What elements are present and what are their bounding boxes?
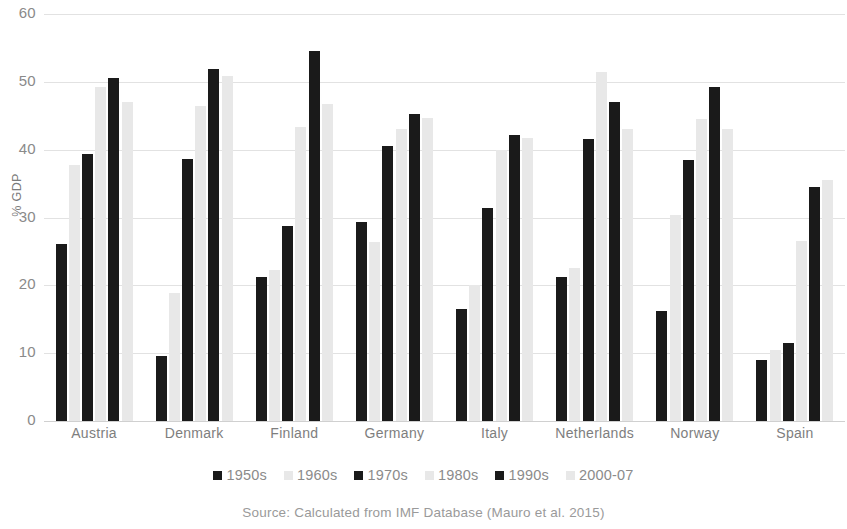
bar	[583, 139, 594, 421]
bar	[783, 343, 794, 421]
legend-item[interactable]: 1950s	[213, 467, 267, 483]
bar	[82, 154, 93, 421]
bar	[222, 76, 233, 421]
legend-item[interactable]: 1970s	[354, 467, 408, 483]
bar	[369, 242, 380, 421]
bar	[722, 129, 733, 421]
gridline	[44, 421, 845, 422]
bar	[696, 119, 707, 421]
legend-label: 2000-07	[579, 467, 634, 483]
bar	[322, 104, 333, 421]
bar	[195, 106, 206, 421]
legend-swatch-icon	[425, 471, 434, 480]
y-axis-tick-label: 20	[0, 275, 36, 292]
bar	[169, 293, 180, 421]
x-axis-tick-label: Netherlands	[545, 425, 645, 441]
x-axis-tick-label: Norway	[645, 425, 745, 441]
bar	[122, 102, 133, 421]
bar	[709, 87, 720, 421]
legend-swatch-icon	[213, 471, 222, 480]
bar	[609, 102, 620, 421]
y-axis-tick-label: 10	[0, 343, 36, 360]
bar	[295, 127, 306, 421]
legend-item[interactable]: 1960s	[284, 467, 338, 483]
bar	[269, 270, 280, 421]
source-note: Source: Calculated from IMF Database (Ma…	[0, 505, 847, 520]
y-axis-tick-label: 0	[0, 411, 36, 428]
bar	[770, 350, 781, 421]
bar	[356, 222, 367, 421]
legend-label: 1970s	[367, 467, 408, 483]
x-axis-tick-label: Finland	[244, 425, 344, 441]
bar	[556, 277, 567, 421]
legend-swatch-icon	[566, 471, 575, 480]
bar-group	[256, 14, 333, 421]
legend-item[interactable]: 2000-07	[566, 467, 634, 483]
bar	[95, 87, 106, 421]
x-axis-tick-label: Spain	[745, 425, 845, 441]
bar	[622, 129, 633, 421]
x-axis-tick-label: Austria	[44, 425, 144, 441]
legend-swatch-icon	[495, 471, 504, 480]
bar	[156, 356, 167, 421]
bar	[309, 51, 320, 421]
bar-group	[156, 14, 233, 421]
bar	[282, 226, 293, 421]
bar	[522, 138, 533, 421]
legend-label: 1950s	[226, 467, 267, 483]
legend-label: 1990s	[508, 467, 549, 483]
bar	[683, 160, 694, 421]
y-axis-tick-label: 40	[0, 140, 36, 157]
bar	[482, 208, 493, 421]
bar	[396, 129, 407, 421]
bar-group	[356, 14, 433, 421]
bar	[670, 215, 681, 421]
bar	[596, 72, 607, 421]
x-axis-tick-label: Germany	[344, 425, 444, 441]
bar	[108, 78, 119, 421]
legend-label: 1980s	[438, 467, 479, 483]
y-axis-tick-label: 50	[0, 72, 36, 89]
legend-item[interactable]: 1980s	[425, 467, 479, 483]
bar	[56, 244, 67, 421]
bar	[656, 311, 667, 421]
bar-group	[756, 14, 833, 421]
bar	[208, 69, 219, 421]
plot-area	[44, 14, 845, 421]
chart-legend: 1950s1960s1970s1980s1990s2000-07	[0, 467, 847, 483]
bar	[796, 241, 807, 421]
bar-chart: % GDP 0102030405060 AustriaDenmarkFinlan…	[0, 0, 847, 529]
legend-swatch-icon	[284, 471, 293, 480]
bar-group	[456, 14, 533, 421]
x-axis-tick-label: Denmark	[144, 425, 244, 441]
bar	[182, 159, 193, 421]
bar	[569, 268, 580, 421]
legend-swatch-icon	[354, 471, 363, 480]
bar	[822, 180, 833, 421]
bar	[809, 187, 820, 421]
bar-group	[556, 14, 633, 421]
bar	[496, 150, 507, 421]
bar	[509, 135, 520, 421]
bar	[256, 277, 267, 421]
x-axis-tick-label: Italy	[445, 425, 545, 441]
bar	[756, 360, 767, 421]
bar	[469, 285, 480, 421]
bar	[409, 114, 420, 421]
bar-group	[56, 14, 133, 421]
bar	[382, 146, 393, 421]
plot-wrapper: % GDP 0102030405060 AustriaDenmarkFinlan…	[0, 0, 847, 440]
y-axis-tick-label: 30	[0, 208, 36, 225]
bar	[456, 309, 467, 421]
bar	[422, 118, 433, 421]
legend-item[interactable]: 1990s	[495, 467, 549, 483]
bar-group	[656, 14, 733, 421]
bar	[69, 165, 80, 421]
legend-label: 1960s	[297, 467, 338, 483]
y-axis-tick-label: 60	[0, 4, 36, 21]
